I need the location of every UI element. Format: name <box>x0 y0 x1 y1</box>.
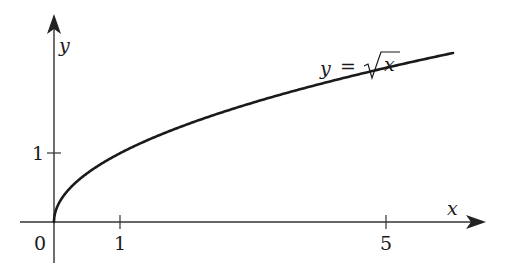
y-tick-label-1: 1 <box>32 142 44 164</box>
sqrt-curve <box>54 53 453 222</box>
svg-text:x: x <box>384 53 395 75</box>
svg-text:=: = <box>340 55 356 77</box>
origin-label: 0 <box>34 232 46 254</box>
x-tick-label-5: 5 <box>380 232 392 254</box>
x-tick-label-1: 1 <box>114 232 126 254</box>
y-axis-label: y <box>58 34 70 56</box>
chart-canvas: 0 1 5 1 x y y = x <box>0 0 511 273</box>
x-axis-label: x <box>447 197 458 219</box>
svg-text:y: y <box>319 57 331 79</box>
